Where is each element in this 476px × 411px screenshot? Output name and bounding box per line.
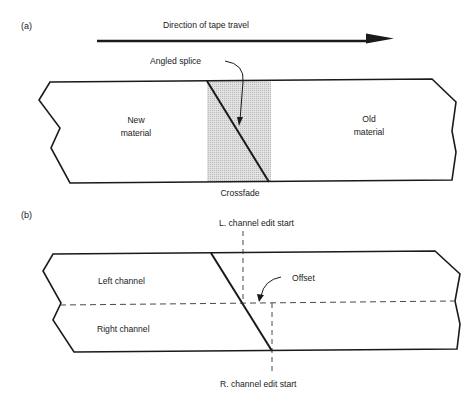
right-channel-label: Right channel (97, 324, 150, 334)
left-channel-label: Left channel (98, 276, 145, 286)
l-channel-edit-label: L. channel edit start (219, 218, 295, 228)
offset-label: Offset (292, 273, 315, 283)
new-material-label-line1: New (127, 115, 145, 125)
channel-divider-line (60, 301, 454, 305)
panel-b: (b) L. channel edit start R. channel edi… (21, 210, 460, 389)
angled-splice-label: Angled splice (150, 56, 201, 66)
panel-b-label: (b) (21, 210, 32, 220)
direction-arrow-icon (97, 34, 394, 44)
tape-outline-b (43, 251, 460, 352)
direction-label: Direction of tape travel (163, 20, 249, 30)
r-channel-edit-label: R. channel edit start (220, 379, 297, 389)
new-material-label-line2: material (121, 128, 152, 138)
offset-pointer-icon (257, 277, 281, 302)
panel-a-label: (a) (21, 21, 32, 31)
angled-splice-line-b (211, 253, 272, 351)
crossfade-label: Crossfade (220, 188, 259, 198)
old-material-label-line2: material (354, 127, 385, 137)
panel-a: (a) Direction of tape travel Angled spli… (21, 20, 456, 198)
tape-splice-diagram: (a) Direction of tape travel Angled spli… (0, 0, 476, 411)
old-material-label-line1: Old (362, 114, 376, 124)
